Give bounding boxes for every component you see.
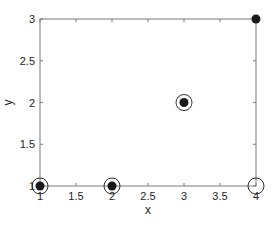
filled-marker (36, 182, 45, 191)
y-axis-label: y (1, 100, 15, 106)
x-tick-label: 2 (109, 190, 115, 202)
x-tick-label: 4 (253, 190, 259, 202)
x-axis-label: x (145, 203, 151, 217)
filled-marker (252, 15, 261, 24)
axes-box (40, 19, 256, 186)
x-tick-label: 3 (181, 190, 187, 202)
y-tick-label: 2.5 (20, 55, 35, 67)
filled-marker (180, 98, 189, 107)
x-tick-label: 1 (37, 190, 43, 202)
y-tick-label: 3 (29, 13, 35, 25)
y-tick-label: 2 (29, 97, 35, 109)
y-tick-label: 1.5 (20, 138, 35, 150)
x-tick-label: 2.5 (140, 190, 155, 202)
x-tick-label: 1.5 (68, 190, 83, 202)
x-tick-label: 3.5 (212, 190, 227, 202)
filled-marker (108, 182, 117, 191)
scatter-plot: 11.522.533.5411.522.53xy (0, 0, 277, 228)
